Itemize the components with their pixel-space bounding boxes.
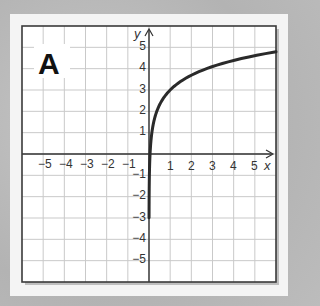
- y-tick: 5: [139, 39, 146, 53]
- x-tick: 2: [188, 159, 195, 173]
- y-tick: 4: [139, 60, 146, 74]
- coordinate-plane: A y x −5 −4 −3 −2 −1 1 2 3 4 5 1 2 3 4 5…: [10, 14, 288, 296]
- x-tick: 1: [167, 159, 174, 173]
- x-tick: −2: [101, 157, 115, 171]
- y-tick: −5: [132, 252, 146, 266]
- x-tick: −5: [38, 157, 52, 171]
- x-tick: −3: [80, 157, 94, 171]
- graph-card: A y x −5 −4 −3 −2 −1 1 2 3 4 5 1 2 3 4 5…: [10, 14, 288, 296]
- y-tick: 3: [139, 82, 146, 96]
- panel-label: A: [38, 47, 60, 80]
- x-tick: 4: [230, 159, 237, 173]
- y-tick: −2: [132, 188, 146, 202]
- y-tick: −3: [132, 210, 146, 224]
- y-tick: −1: [132, 167, 146, 181]
- x-tick: 3: [209, 159, 216, 173]
- y-tick: −4: [132, 231, 146, 245]
- x-tick: −4: [59, 157, 73, 171]
- y-tick: 1: [139, 124, 146, 138]
- x-tick: 5: [251, 159, 258, 173]
- x-axis-label: x: [263, 158, 271, 173]
- y-tick: 2: [139, 103, 146, 117]
